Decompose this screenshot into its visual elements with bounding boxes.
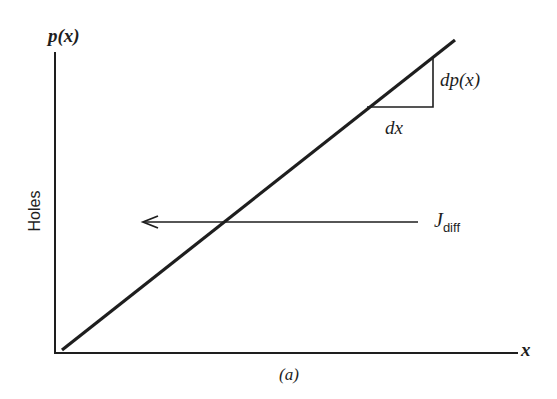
- diffusion-current-label: Jdiff: [434, 210, 460, 230]
- slope-dy-label: dp(x): [440, 70, 480, 89]
- current-subscript: diff: [443, 220, 460, 235]
- concentration-line: [62, 40, 455, 350]
- slope-dx-label: dx: [385, 118, 403, 137]
- y-axis-label: p(x): [48, 26, 80, 45]
- current-symbol: J: [434, 209, 443, 231]
- y-axis-title: Holes: [27, 191, 43, 232]
- diagram-canvas: [0, 0, 557, 399]
- figure-caption: (a): [279, 366, 299, 383]
- x-axis-label: x: [521, 340, 531, 359]
